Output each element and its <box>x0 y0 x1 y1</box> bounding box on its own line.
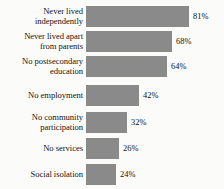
bar-row: No employment 42% <box>0 83 224 108</box>
category-label: Never lived apart from parents <box>0 32 86 51</box>
bar-value-label: 68% <box>176 37 191 46</box>
bar-row: No services 26% <box>0 136 224 161</box>
bar-row: No community participation 32% <box>0 110 224 135</box>
bar-value-label: 64% <box>171 62 186 71</box>
category-label: No postsecondary education <box>0 57 86 76</box>
category-label: No community participation <box>0 113 86 132</box>
bar <box>86 138 119 159</box>
bar <box>86 31 172 52</box>
category-label: Social isolation <box>0 170 86 180</box>
category-label: No employment <box>0 91 86 101</box>
bar-area: 26% <box>86 136 224 161</box>
bar-area: 64% <box>86 54 224 79</box>
horizontal-bar-chart: Never lived independently 81% Never live… <box>0 0 224 189</box>
bar-value-label: 26% <box>123 144 138 153</box>
bar-value-label: 24% <box>120 170 135 179</box>
bar-area: 24% <box>86 162 224 187</box>
bar-value-label: 81% <box>193 12 208 21</box>
category-label: No services <box>0 144 86 154</box>
bar <box>86 56 167 77</box>
bar-area: 68% <box>86 29 224 54</box>
bar <box>86 112 127 133</box>
bar <box>86 164 116 185</box>
bar <box>86 85 139 106</box>
bar-row: Never lived apart from parents 68% <box>0 29 224 54</box>
category-label: Never lived independently <box>0 7 86 26</box>
bar-row: Never lived independently 81% <box>0 4 224 29</box>
bar-value-label: 32% <box>131 118 146 127</box>
bar-value-label: 42% <box>143 91 158 100</box>
bar-area: 32% <box>86 110 224 135</box>
bar-row: No postsecondary education 64% <box>0 54 224 79</box>
bar-area: 42% <box>86 83 224 108</box>
bar-area: 81% <box>86 4 224 29</box>
bar <box>86 6 189 27</box>
bar-row: Social isolation 24% <box>0 162 224 187</box>
